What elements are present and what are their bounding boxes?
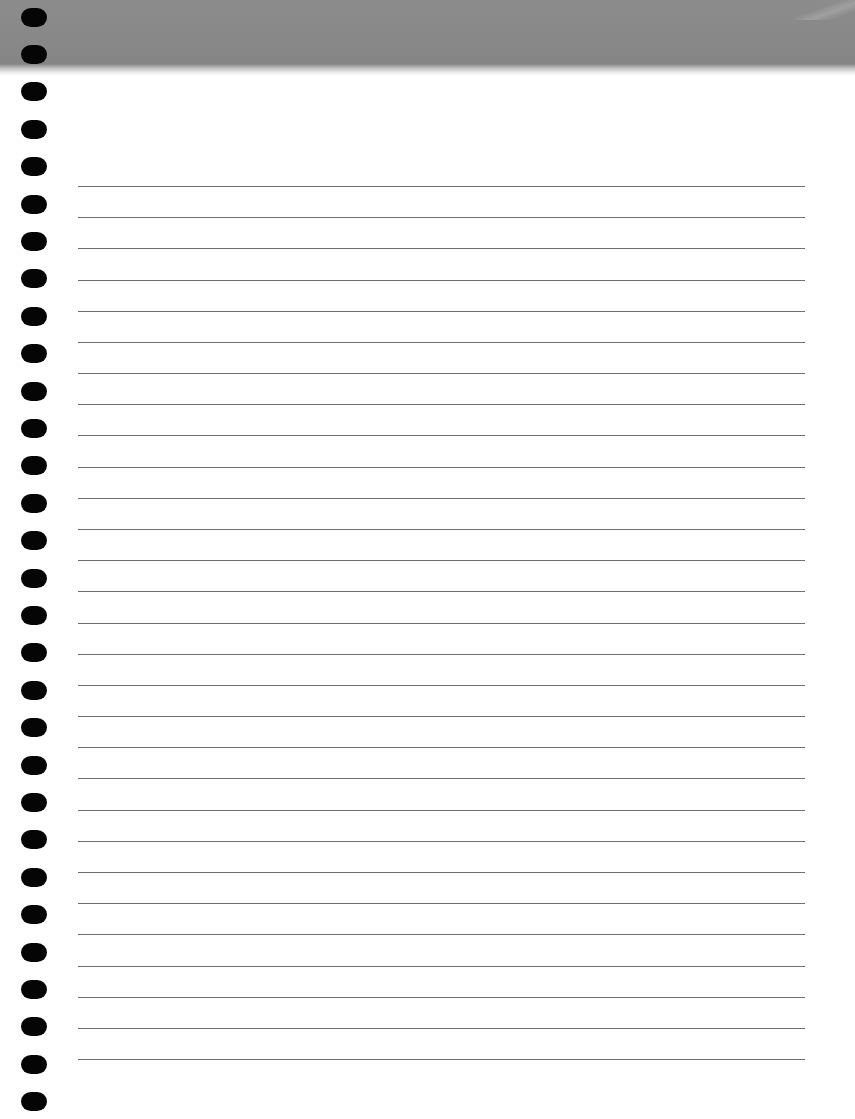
ruled-lines bbox=[0, 0, 855, 1119]
ruled-line bbox=[78, 217, 805, 218]
notebook-page bbox=[0, 0, 855, 1119]
ruled-line bbox=[78, 404, 805, 405]
ruled-line bbox=[78, 747, 805, 748]
ruled-line bbox=[78, 654, 805, 655]
ruled-line bbox=[78, 498, 805, 499]
ruled-line bbox=[78, 841, 805, 842]
ruled-line bbox=[78, 1028, 805, 1029]
ruled-line bbox=[78, 716, 805, 717]
ruled-line bbox=[78, 248, 805, 249]
ruled-line bbox=[78, 872, 805, 873]
ruled-line bbox=[78, 685, 805, 686]
ruled-line bbox=[78, 311, 805, 312]
ruled-line bbox=[78, 467, 805, 468]
ruled-line bbox=[78, 186, 805, 187]
ruled-line bbox=[78, 1059, 805, 1060]
ruled-line bbox=[78, 778, 805, 779]
ruled-line bbox=[78, 435, 805, 436]
ruled-line bbox=[78, 280, 805, 281]
ruled-line bbox=[78, 997, 805, 998]
ruled-line bbox=[78, 591, 805, 592]
ruled-line bbox=[78, 966, 805, 967]
ruled-line bbox=[78, 934, 805, 935]
ruled-line bbox=[78, 373, 805, 374]
ruled-line bbox=[78, 560, 805, 561]
ruled-line bbox=[78, 623, 805, 624]
ruled-line bbox=[78, 342, 805, 343]
ruled-line bbox=[78, 529, 805, 530]
ruled-line bbox=[78, 810, 805, 811]
ruled-line bbox=[78, 903, 805, 904]
